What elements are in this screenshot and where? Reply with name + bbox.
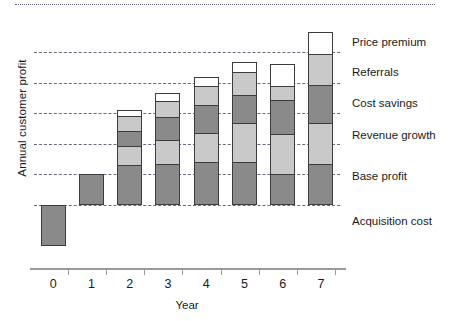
x-tick-label-0: 0 bbox=[40, 277, 66, 291]
bar-segment-base-profit-year-7 bbox=[308, 164, 333, 205]
bar-year-5 bbox=[232, 62, 257, 205]
bar-segment-referrals-year-2 bbox=[117, 116, 142, 131]
series-label-referrals: Referrals bbox=[352, 66, 399, 78]
x-tick-7 bbox=[335, 268, 336, 275]
bar-segment-base-profit-year-6 bbox=[270, 174, 295, 205]
bar-year-3 bbox=[155, 93, 180, 205]
bar-segment-base-profit-year-4 bbox=[194, 162, 219, 205]
bar-segment-base-profit-year-3 bbox=[155, 164, 180, 205]
x-tick-6 bbox=[297, 268, 298, 275]
x-tick-0 bbox=[68, 268, 69, 275]
bar-segment-revenue-growth-year-4 bbox=[194, 133, 219, 164]
x-tick-label-2: 2 bbox=[117, 277, 143, 291]
x-tick-3 bbox=[182, 268, 183, 275]
bar-segment-cost-savings-year-7 bbox=[308, 85, 333, 125]
bar-year-1 bbox=[79, 174, 104, 205]
bar-year-4 bbox=[194, 77, 219, 205]
bar-segment-price-premium-year-7 bbox=[308, 32, 333, 55]
x-tick-5 bbox=[259, 268, 260, 275]
x-tick-label-6: 6 bbox=[270, 277, 296, 291]
x-tick-label-5: 5 bbox=[231, 277, 257, 291]
bar-segment-cost-savings-year-6 bbox=[270, 100, 295, 135]
y-axis-title: Annual customer profit bbox=[16, 33, 28, 203]
bar-segment-cost-savings-year-5 bbox=[232, 95, 257, 124]
bar-segment-revenue-growth-year-5 bbox=[232, 123, 257, 163]
bar-segment-revenue-growth-year-6 bbox=[270, 134, 295, 175]
bar-segment-referrals-year-4 bbox=[194, 86, 219, 106]
bars-group bbox=[34, 40, 340, 270]
bar-segment-revenue-growth-year-7 bbox=[308, 123, 333, 164]
bar-segment-cost-savings-year-4 bbox=[194, 105, 219, 134]
bar-segment-cost-savings-year-2 bbox=[117, 131, 142, 148]
series-label-base-profit: Base profit bbox=[352, 170, 407, 182]
bar-segment-acquisition-cost-year-0 bbox=[41, 205, 66, 246]
bar-segment-revenue-growth-year-3 bbox=[155, 140, 180, 164]
x-tick-label-1: 1 bbox=[78, 277, 104, 291]
series-label-revenue-growth: Revenue growth bbox=[352, 129, 436, 141]
bar-segment-referrals-year-3 bbox=[155, 101, 180, 118]
bar-year-6 bbox=[270, 64, 295, 205]
x-tick-1 bbox=[106, 268, 107, 275]
x-tick-label-7: 7 bbox=[308, 277, 334, 291]
series-label-cost-savings: Cost savings bbox=[352, 97, 418, 109]
bar-year-7 bbox=[308, 32, 333, 205]
plot-area bbox=[34, 40, 340, 270]
bar-acquisition-cost-year-0 bbox=[41, 205, 66, 246]
x-tick-2 bbox=[144, 268, 145, 275]
bar-segment-referrals-year-6 bbox=[270, 86, 295, 101]
bar-segment-price-premium-year-6 bbox=[270, 64, 295, 87]
bar-year-2 bbox=[117, 110, 142, 205]
bar-segment-cost-savings-year-3 bbox=[155, 117, 180, 141]
bar-segment-base-profit-year-5 bbox=[232, 162, 257, 205]
bar-segment-referrals-year-5 bbox=[232, 72, 257, 96]
bar-segment-base-profit-year-2 bbox=[117, 165, 142, 205]
x-axis-title: Year bbox=[34, 299, 340, 311]
chart-figure: Annual customer profit 01234567 Year Pri… bbox=[0, 0, 451, 321]
series-label-price-premium: Price premium bbox=[352, 36, 426, 48]
bar-segment-base-profit-year-1 bbox=[79, 174, 104, 205]
x-tick-4 bbox=[221, 268, 222, 275]
x-tick-label-3: 3 bbox=[155, 277, 181, 291]
x-tick-label-4: 4 bbox=[193, 277, 219, 291]
x-axis-line bbox=[30, 268, 346, 270]
bar-segment-revenue-growth-year-2 bbox=[117, 146, 142, 166]
bar-segment-referrals-year-7 bbox=[308, 54, 333, 86]
top-dotted-rule bbox=[15, 4, 435, 5]
series-label-acquisition-cost: Acquisition cost bbox=[352, 215, 432, 227]
